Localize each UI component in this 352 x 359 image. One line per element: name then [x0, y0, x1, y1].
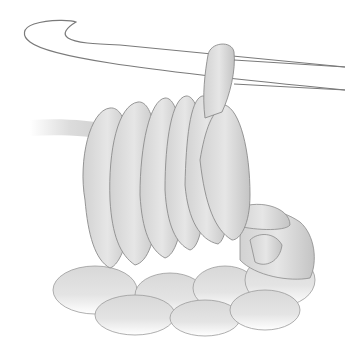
crochet-hook [24, 20, 345, 90]
illustration: Crochet hook with yarn loops illustratio… [0, 0, 352, 359]
yarn-over-hook [204, 44, 235, 118]
yarn-loops [83, 96, 250, 268]
crochet-illustration [0, 0, 352, 359]
